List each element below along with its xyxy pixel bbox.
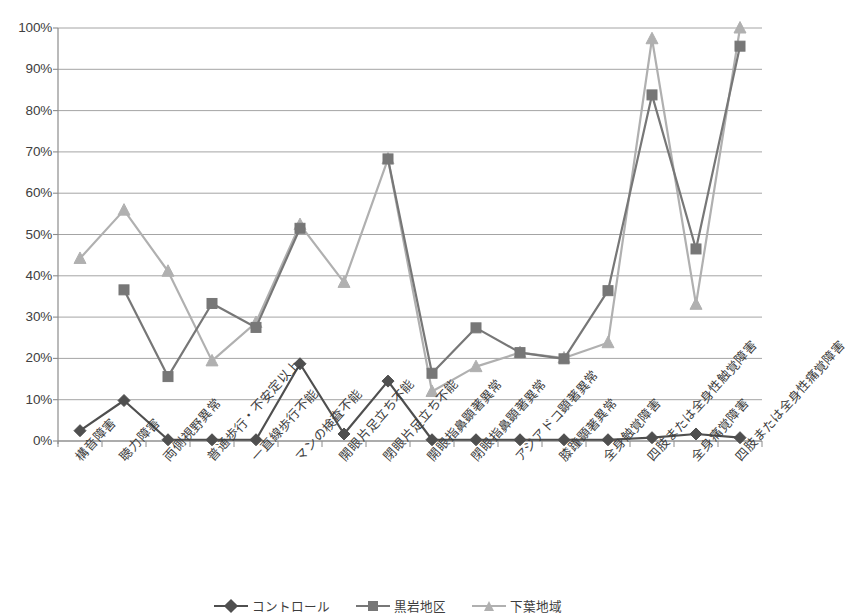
data-point-diamond [250, 434, 262, 446]
legend-swatch-triangle-icon [472, 600, 506, 612]
data-point-square [471, 323, 481, 333]
series-line [80, 28, 740, 391]
data-point-diamond [206, 434, 218, 446]
data-point-square [119, 285, 129, 295]
data-point-square [735, 41, 745, 51]
data-point-diamond [646, 432, 658, 444]
data-point-square [559, 354, 569, 364]
data-point-diamond [734, 432, 746, 444]
data-point-square [515, 348, 525, 358]
series-line [388, 46, 740, 373]
series-0 [74, 358, 746, 446]
data-series [74, 22, 746, 446]
data-point-square [207, 298, 217, 308]
data-point-square [383, 154, 393, 164]
series-line [80, 364, 740, 440]
data-point-triangle [602, 336, 614, 348]
data-point-diamond [602, 434, 614, 446]
data-point-square [427, 368, 437, 378]
legend-label: 黒岩地区 [394, 596, 446, 615]
series-2 [74, 22, 746, 397]
legend-entry[interactable]: 下葉地域 [472, 596, 562, 615]
data-point-square [603, 286, 613, 296]
data-point-triangle [426, 385, 438, 397]
data-point-square [163, 372, 173, 382]
legend-entry[interactable]: 黒岩地区 [356, 596, 446, 615]
data-point-square [251, 322, 261, 332]
data-point-square [295, 223, 305, 233]
data-point-diamond [470, 434, 482, 446]
data-point-square [647, 90, 657, 100]
legend-label: 下葉地域 [510, 596, 562, 615]
data-point-diamond [690, 428, 702, 440]
data-point-triangle [690, 298, 702, 310]
data-point-triangle [118, 204, 130, 216]
legend-swatch-diamond-icon [214, 600, 248, 612]
chart-legend: コントロール黒岩地区下葉地域 [0, 596, 775, 616]
legend-entry[interactable]: コントロール [214, 596, 330, 615]
data-point-square [691, 244, 701, 254]
legend-label: コントロール [252, 596, 330, 615]
legend-swatch-square-icon [356, 600, 390, 612]
series-1 [119, 41, 745, 381]
data-point-triangle [646, 32, 658, 44]
data-point-diamond [514, 434, 526, 446]
data-point-diamond [294, 358, 306, 370]
data-point-diamond [558, 434, 570, 446]
data-point-triangle [734, 22, 746, 34]
